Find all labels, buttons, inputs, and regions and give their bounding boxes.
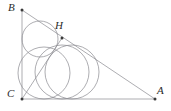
incircle-BCH: [22, 21, 58, 57]
vertex-label-H: H: [55, 20, 63, 31]
vertex-label-C: C: [7, 88, 14, 99]
geometry-figure: B H A C: [0, 0, 171, 111]
vertex-label-A: A: [157, 85, 164, 96]
circle-right: [45, 45, 99, 99]
vertex-dot-B: [21, 9, 24, 12]
segment-BA: [22, 10, 155, 99]
triangle-segments-group: [22, 10, 155, 99]
vertex-dot-A: [154, 98, 157, 101]
incircle-ACH: [35, 45, 89, 99]
vertex-label-B: B: [8, 2, 15, 13]
geometry-canvas: [0, 0, 171, 111]
vertex-dot-C: [21, 98, 24, 101]
inscribed-circles-group: [18, 21, 99, 99]
vertex-dot-H: [61, 37, 64, 40]
incircle-ABC: [18, 47, 70, 99]
